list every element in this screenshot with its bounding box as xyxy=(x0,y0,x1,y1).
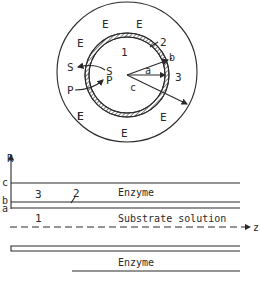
enzyme-label: E xyxy=(102,18,109,31)
enzyme-label: E xyxy=(77,110,84,123)
cross-section: E E E E E E E 1 2 3 a b c S P S P xyxy=(57,2,197,142)
radius-c-tick: c xyxy=(2,177,8,188)
region-3-longitudinal: 3 xyxy=(35,188,42,201)
region-1-longitudinal: 1 xyxy=(35,212,42,225)
radius-b-label: b xyxy=(169,52,175,63)
axis-z-label: z xyxy=(253,222,259,233)
product-inside-label: P xyxy=(106,74,113,87)
enzyme-label: E xyxy=(136,18,143,31)
substrate-outside-label: S xyxy=(67,61,74,74)
enzyme-label: E xyxy=(77,37,84,50)
product-outside-label: P xyxy=(67,84,74,97)
radius-a-tick: a xyxy=(2,203,8,214)
substrate-solution-label: Substrate solution xyxy=(118,213,226,224)
radius-a-label: a xyxy=(145,65,151,76)
longitudinal-section: R c b a 3 2 1 Enzyme Substrate solution … xyxy=(2,153,259,271)
radius-c-label: c xyxy=(130,82,136,93)
enzyme-top-label: Enzyme xyxy=(118,187,154,198)
region-3-label: 3 xyxy=(175,71,182,84)
enzyme-label: E xyxy=(121,127,128,140)
region-1-label: 1 xyxy=(121,46,128,59)
enzyme-bottom-label: Enzyme xyxy=(118,257,154,268)
enzyme-label: E xyxy=(160,111,167,124)
region-2-label: 2 xyxy=(160,36,167,49)
axis-r-label: R xyxy=(7,153,14,164)
hollow-fiber-diagram: E E E E E E E 1 2 3 a b c S P S P R c b … xyxy=(0,0,260,285)
